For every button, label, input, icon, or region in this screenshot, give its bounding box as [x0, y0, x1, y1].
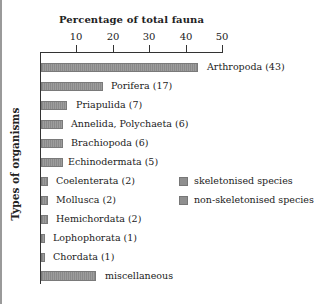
bar-arthropoda — [41, 63, 198, 72]
bar-mollusca — [41, 196, 48, 205]
bar-label: Coelenterata (2) — [56, 176, 135, 186]
bar-label: Porifera (17) — [111, 81, 172, 91]
legend-swatch-skeletonised — [179, 177, 188, 186]
legend-swatch-non-skeletonised — [179, 196, 188, 205]
left-border — [0, 0, 2, 304]
bar-label: Hemichordata (2) — [56, 214, 141, 224]
chart-title: Percentage of total fauna — [40, 14, 223, 25]
x-tick — [76, 45, 77, 52]
bar-label: Brachiopoda (6) — [71, 138, 148, 148]
bar-label: Arthropoda (43) — [207, 62, 285, 72]
bar-lophophorata — [41, 234, 45, 243]
bar-label: Annelida, Polychaeta (6) — [71, 119, 188, 129]
bar-hemichordata — [41, 215, 48, 224]
x-tick — [113, 45, 114, 52]
y-axis-label: Types of organisms — [9, 104, 21, 224]
x-tick — [149, 45, 150, 52]
bar-coelenterata — [41, 177, 48, 186]
x-tick-label: 20 — [98, 31, 128, 42]
bar-label: Priapulida (7) — [76, 100, 142, 110]
bar-annelida — [41, 120, 63, 129]
x-tick-label: 50 — [207, 31, 237, 42]
x-tick — [186, 45, 187, 52]
bar-priapulida — [41, 101, 67, 110]
bar-chordata — [41, 253, 45, 262]
x-axis — [40, 52, 223, 53]
legend-label: skeletonised species — [194, 176, 293, 186]
x-tick-label: 10 — [61, 31, 91, 42]
bar-echinodermata — [41, 158, 63, 167]
bar-brachiopoda — [41, 139, 63, 148]
bar-label: Lophophorata (1) — [53, 233, 137, 243]
bar-label: Mollusca (2) — [56, 195, 116, 205]
bar-label: miscellaneous — [105, 271, 173, 281]
bar-label: Echinodermata (5) — [68, 157, 158, 167]
legend-label: non-skeletonised species — [194, 195, 314, 205]
x-tick-label: 30 — [134, 31, 164, 42]
bar-label: Chordata (1) — [53, 252, 114, 262]
x-tick — [222, 45, 223, 52]
bar-porifera — [41, 82, 103, 91]
bar-miscellaneous — [41, 271, 96, 281]
x-tick-label: 40 — [171, 31, 201, 42]
